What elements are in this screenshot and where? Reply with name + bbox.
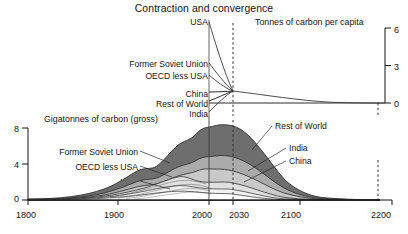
top-curve-china (209, 91, 233, 92)
top-curve-rest-of-world (209, 91, 233, 101)
bottom-panel-group (22, 116, 392, 205)
chart-canvas (0, 0, 408, 234)
top-curve-former-soviet-union (209, 63, 233, 91)
top-panel-group (209, 20, 391, 117)
leader-rest-of-world (252, 126, 272, 150)
top-curve-usa (209, 22, 233, 91)
leader-former-soviet-union (140, 151, 170, 163)
figure-root: Contraction and convergence Tonnes of ca… (0, 0, 408, 234)
top-curve-converged-decline (233, 91, 385, 103)
top-curve-india (209, 91, 233, 112)
